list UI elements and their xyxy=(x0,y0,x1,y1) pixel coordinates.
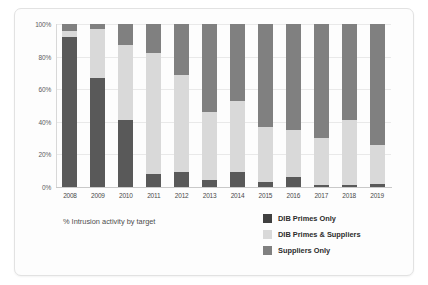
legend-item[interactable]: Suppliers Only xyxy=(263,246,361,255)
stacked-bar[interactable] xyxy=(258,24,273,187)
x-axis-tick-label: 2014 xyxy=(224,189,252,203)
legend-item-label: DIB Primes Only xyxy=(278,214,336,223)
bar-group xyxy=(56,24,391,187)
stacked-bar[interactable] xyxy=(370,24,385,187)
x-axis-tick-label: 2016 xyxy=(279,189,307,203)
bar-segment xyxy=(286,24,301,130)
legend-item-label: DIB Primes & Suppliers xyxy=(278,230,361,239)
bar-slot xyxy=(84,24,112,187)
bar-segment xyxy=(146,24,161,53)
x-axis-line xyxy=(56,187,392,188)
bar-slot xyxy=(56,24,84,187)
bar-slot xyxy=(224,24,252,187)
stacked-bar[interactable] xyxy=(90,24,105,187)
chart-caption: % Intrusion activity by target xyxy=(63,217,155,226)
bar-segment xyxy=(314,138,329,185)
bar-segment xyxy=(90,78,105,187)
y-axis-tick-label: 80% xyxy=(39,53,51,60)
x-axis-tick-label: 2011 xyxy=(140,189,168,203)
y-axis-tick-label: 60% xyxy=(39,86,51,93)
stacked-bar[interactable] xyxy=(314,24,329,187)
y-axis-tick-label: 0% xyxy=(42,184,51,191)
bar-slot xyxy=(363,24,391,187)
bar-segment xyxy=(230,101,245,173)
bar-segment xyxy=(174,172,189,187)
legend-item[interactable]: DIB Primes Only xyxy=(263,214,361,223)
bar-slot xyxy=(279,24,307,187)
bar-segment xyxy=(62,37,77,187)
plot-area: 0%20%40%60%80%100% xyxy=(56,24,391,187)
x-axis-tick-label: 2017 xyxy=(307,189,335,203)
x-axis-tick-label: 2013 xyxy=(196,189,224,203)
stacked-bar[interactable] xyxy=(286,24,301,187)
stacked-bar[interactable] xyxy=(174,24,189,187)
bar-segment xyxy=(118,24,133,45)
y-axis-line xyxy=(56,24,57,188)
x-axis-tick-label: 2012 xyxy=(168,189,196,203)
bar-slot xyxy=(251,24,279,187)
x-axis-tick-label: 2019 xyxy=(363,189,391,203)
stacked-bar[interactable] xyxy=(202,24,217,187)
bar-slot xyxy=(168,24,196,187)
bar-slot xyxy=(140,24,168,187)
bar-segment xyxy=(370,24,385,145)
bar-segment xyxy=(230,172,245,187)
legend-item-label: Suppliers Only xyxy=(278,246,330,255)
bar-segment xyxy=(202,112,217,180)
bar-segment xyxy=(146,53,161,174)
x-axis-tick-labels: 2008200920102011201220132014201520162017… xyxy=(56,189,391,203)
bar-segment xyxy=(174,24,189,75)
bar-segment xyxy=(202,24,217,112)
legend-item[interactable]: DIB Primes & Suppliers xyxy=(263,230,361,239)
bar-segment xyxy=(286,177,301,187)
stacked-bar[interactable] xyxy=(230,24,245,187)
bar-slot xyxy=(196,24,224,187)
x-axis-tick-label: 2008 xyxy=(56,189,84,203)
stacked-bar[interactable] xyxy=(146,24,161,187)
x-axis-tick-label: 2010 xyxy=(112,189,140,203)
y-axis-tick-label: 20% xyxy=(39,151,51,158)
x-axis-tick-label: 2009 xyxy=(84,189,112,203)
bar-segment xyxy=(174,75,189,173)
bar-slot xyxy=(307,24,335,187)
chart-legend: DIB Primes OnlyDIB Primes & SuppliersSup… xyxy=(263,214,361,255)
x-axis-tick-label: 2018 xyxy=(335,189,363,203)
x-axis-tick-label: 2015 xyxy=(251,189,279,203)
bar-segment xyxy=(146,174,161,187)
bar-segment xyxy=(342,120,357,185)
bar-segment xyxy=(258,127,273,182)
y-axis-tick-label: 40% xyxy=(39,118,51,125)
bar-segment xyxy=(286,130,301,177)
y-axis-tick-label: 100% xyxy=(35,21,51,28)
bar-segment xyxy=(230,24,245,101)
bar-segment xyxy=(370,145,385,184)
bar-segment xyxy=(314,24,329,138)
legend-swatch-icon xyxy=(263,246,272,255)
stacked-bar[interactable] xyxy=(118,24,133,187)
bar-slot xyxy=(335,24,363,187)
bar-segment xyxy=(258,24,273,127)
bar-slot xyxy=(112,24,140,187)
bar-segment xyxy=(90,29,105,78)
legend-swatch-icon xyxy=(263,214,272,223)
bar-segment xyxy=(118,45,133,120)
bar-segment xyxy=(342,24,357,120)
bar-segment xyxy=(118,120,133,187)
chart-figure: 0%20%40%60%80%100% 200820092010201120122… xyxy=(14,8,414,276)
legend-swatch-icon xyxy=(263,230,272,239)
stacked-bar[interactable] xyxy=(342,24,357,187)
stacked-bar[interactable] xyxy=(62,24,77,187)
